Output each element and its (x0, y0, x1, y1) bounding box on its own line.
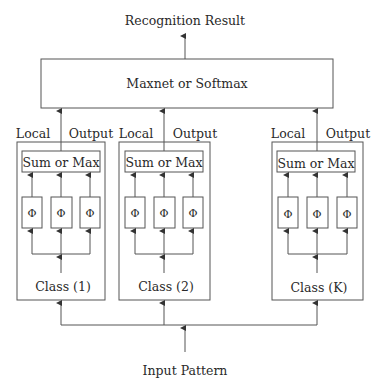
phi-unit: Φ (56, 207, 65, 220)
phi-unit: Φ (342, 208, 351, 221)
maxnet-label: Maxnet or Softmax (126, 76, 247, 91)
sum-or-max-label: Sum or Max (125, 155, 202, 170)
local-label: Local (119, 126, 153, 141)
output-label: Output (326, 126, 370, 141)
sum-or-max-label: Sum or Max (22, 155, 99, 170)
input-pattern-label: Input Pattern (143, 363, 228, 378)
phi-unit: Φ (283, 208, 292, 221)
diagram-lines (0, 0, 385, 388)
phi-unit: Φ (130, 207, 139, 220)
class-label: Class (2) (138, 279, 194, 294)
sum-or-max-label: Sum or Max (277, 156, 354, 171)
phi-unit: Φ (312, 208, 321, 221)
recognition-result-label: Recognition Result (125, 13, 245, 28)
phi-unit: Φ (85, 207, 94, 220)
local-label: Local (16, 126, 50, 141)
phi-unit: Φ (188, 207, 197, 220)
class-label: Class (1) (35, 279, 91, 294)
class-label: Class (K) (291, 280, 348, 295)
phi-unit: Φ (159, 207, 168, 220)
output-label: Output (173, 126, 217, 141)
local-label: Local (271, 126, 305, 141)
output-label: Output (69, 126, 113, 141)
phi-unit: Φ (27, 207, 36, 220)
